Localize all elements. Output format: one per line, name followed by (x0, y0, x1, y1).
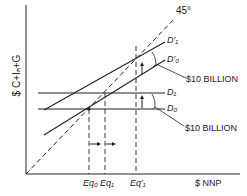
label-d0: D₀ (167, 104, 177, 113)
arrowhead-up-lower (140, 95, 144, 99)
label-45-degree: 45° (176, 6, 191, 16)
bracket-lower (152, 94, 155, 109)
label-d1: D₁ (167, 88, 176, 97)
label-eq0: Eq₀ (83, 179, 98, 188)
label-d1-prime: D′₁ (167, 36, 178, 45)
line-d1-prime (44, 42, 165, 110)
y-axis-label: $ C+Iₙ+G (11, 46, 22, 106)
x-axis-label: $ NNP (195, 179, 222, 188)
leader-line-upper (156, 64, 186, 78)
arrowhead-up-upper (140, 62, 144, 66)
bracket-upper (152, 52, 156, 67)
label-eq1: Eq₁ (100, 179, 114, 188)
line-45-degree (26, 18, 175, 174)
eq0-point (88, 108, 91, 111)
label-10-billion-upper: $10 BILLION (186, 75, 238, 84)
arrowhead-right-1 (97, 142, 101, 146)
line-d0-prime (44, 60, 165, 135)
arrowhead-right-2 (112, 142, 116, 146)
label-eq1-prime: Eq′₁ (130, 179, 146, 188)
label-d0-prime: D′₀ (167, 55, 179, 64)
label-10-billion-lower: $10 BILLION (185, 124, 237, 133)
keynesian-cross-diagram: $ C+Iₙ+G 45° D′₁ D′₀ $10 BILLION D₁ D₀ $… (0, 0, 247, 196)
diagram-canvas (0, 0, 247, 196)
